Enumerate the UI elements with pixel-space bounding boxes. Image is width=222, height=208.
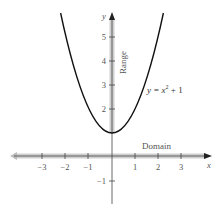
- range-label: Range: [118, 51, 128, 74]
- y-tick-label: 3: [102, 80, 106, 90]
- domain-label: Domain: [142, 141, 171, 151]
- y-axis-arrow: [109, 12, 115, 20]
- x-tick-label: 3: [179, 162, 183, 172]
- x-tick-label: −1: [83, 162, 92, 172]
- y-tick-label: −1: [97, 176, 106, 186]
- y-tick-label: 4: [102, 56, 107, 66]
- x-tick-label: 2: [156, 162, 160, 172]
- y-axis-label: y: [101, 11, 106, 21]
- x-axis-label: x: [206, 160, 211, 170]
- x-axis-arrow: [204, 153, 212, 159]
- equation-label: y = x2 + 1: [146, 84, 183, 95]
- y-tick-label: 5: [102, 32, 106, 42]
- x-tick-label: −3: [37, 162, 46, 172]
- x-tick-label: 1: [133, 162, 137, 172]
- y-tick-label: 2: [102, 104, 106, 114]
- x-tick-label: −2: [60, 162, 69, 172]
- parabola-chart: −3 −2 −1 1 2 3 −1 2 3 4 5 x y Domain Ran…: [0, 0, 222, 208]
